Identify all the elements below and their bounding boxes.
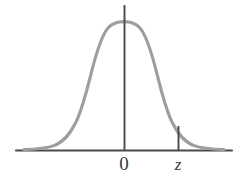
x-axis-label-zero: 0 <box>108 154 140 173</box>
x-axis-label-z: z <box>162 156 194 173</box>
normal-distribution-figure: 0 z <box>0 0 247 181</box>
